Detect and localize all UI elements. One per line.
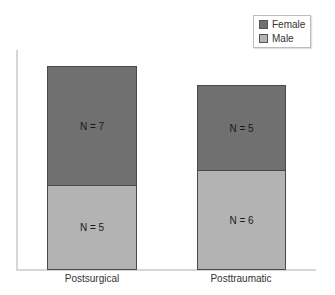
male-swatch-icon	[259, 34, 268, 43]
bar-segment-female: N = 7	[47, 66, 137, 186]
data-label: N = 5	[80, 222, 104, 233]
legend-label: Female	[272, 19, 305, 30]
bar-posttraumatic: N = 5 N = 6	[197, 85, 286, 270]
data-label: N = 6	[229, 215, 253, 226]
bar-postsurgical: N = 7 N = 5	[47, 66, 137, 270]
x-tick-label: Postsurgical	[42, 273, 142, 284]
bar-segment-male: N = 5	[47, 185, 137, 270]
female-swatch-icon	[259, 20, 268, 29]
legend-item-female: Female	[259, 19, 305, 30]
bar-segment-female: N = 5	[197, 85, 286, 171]
x-tick-label: Posttraumatic	[191, 273, 291, 284]
legend-label: Male	[272, 33, 294, 44]
bar-segment-male: N = 6	[197, 170, 286, 270]
legend-item-male: Male	[259, 33, 294, 44]
data-label: N = 7	[80, 121, 104, 132]
data-label: N = 5	[229, 123, 253, 134]
y-axis	[16, 50, 18, 271]
legend: Female Male	[253, 15, 311, 48]
